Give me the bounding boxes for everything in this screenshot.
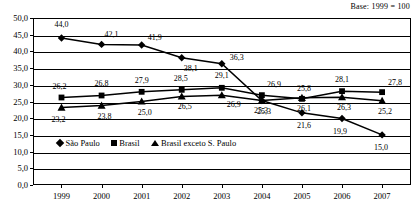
base-note: Base: 1999 = 100 (351, 2, 411, 11)
y-axis-tick (30, 85, 33, 86)
x-axis-tick (382, 185, 383, 188)
plot-area (33, 18, 411, 185)
x-axis-tick (302, 185, 303, 188)
y-axis-label: 40,0 (0, 46, 28, 56)
chart-container: Base: 1999 = 100 0,05,010,015,020,025,03… (0, 0, 418, 218)
data-point-label: 25,2 (378, 108, 392, 116)
chart-legend: São PauloBrasilBrasil exceto S. Paulo (57, 138, 243, 148)
data-point-label: 38,1 (184, 65, 198, 73)
gridline (34, 153, 410, 154)
triangle-marker-icon (151, 140, 159, 146)
y-axis-tick (30, 18, 33, 19)
y-axis-label: 10,0 (0, 147, 28, 157)
data-point-label: 26,9 (227, 101, 241, 109)
y-axis-label: 35,0 (0, 63, 28, 73)
y-axis-label: 0,0 (0, 180, 28, 190)
gridline (34, 36, 410, 37)
y-axis-tick (30, 185, 33, 186)
y-axis-tick (30, 51, 33, 52)
data-point-label: 36,3 (230, 54, 244, 62)
gridline (34, 52, 410, 53)
x-axis-label: 2002 (173, 191, 190, 201)
y-axis-label: 25,0 (0, 97, 28, 107)
data-point-label: 42,1 (105, 31, 119, 39)
legend-entry[interactable]: Brasil exceto S. Paulo (151, 138, 237, 148)
data-point-label: 26,9 (267, 81, 281, 89)
y-axis-tick (30, 168, 33, 169)
y-axis-tick (30, 68, 33, 69)
x-axis-tick (142, 185, 143, 188)
y-axis-label: 30,0 (0, 80, 28, 90)
x-axis-label: 2004 (253, 191, 270, 201)
x-axis-label: 1999 (53, 191, 70, 201)
data-point-label: 27,8 (388, 79, 402, 87)
data-point-label: 44,0 (54, 21, 68, 29)
y-axis-label: 20,0 (0, 113, 28, 123)
x-axis-tick (222, 185, 223, 188)
legend-entry[interactable]: Brasil (111, 138, 140, 148)
x-axis-tick (342, 185, 343, 188)
data-point-label: 27,9 (135, 77, 149, 85)
data-point-label: 28,1 (335, 76, 349, 84)
x-axis-label: 2003 (213, 191, 230, 201)
data-point-label: 23,8 (98, 113, 112, 121)
data-point-label: 41,9 (148, 34, 162, 42)
data-point-label: 26,1 (297, 105, 311, 113)
x-axis-tick (262, 185, 263, 188)
x-axis-label: 2007 (374, 191, 391, 201)
data-point-label: 25,3 (257, 108, 271, 116)
gridline (34, 119, 410, 120)
diamond-marker-icon (56, 139, 64, 147)
data-point-label: 26,3 (337, 104, 351, 112)
y-axis-tick (30, 135, 33, 136)
gridline (34, 86, 410, 87)
x-axis-label: 2001 (133, 191, 150, 201)
data-point-label: 26,2 (52, 83, 66, 91)
x-axis-tick (61, 185, 62, 188)
data-point-label: 15,0 (374, 144, 388, 152)
legend-label: Brasil exceto S. Paulo (161, 138, 236, 148)
y-axis-tick (30, 118, 33, 119)
x-axis-label: 2000 (93, 191, 110, 201)
y-axis-label: 45,0 (0, 30, 28, 40)
data-point-label: 23,2 (51, 116, 65, 124)
y-axis-tick (30, 152, 33, 153)
legend-entry[interactable]: São Paulo (57, 138, 100, 148)
y-axis-tick (30, 35, 33, 36)
x-axis-label: 2006 (334, 191, 351, 201)
data-point-label: 26,8 (95, 80, 109, 88)
y-axis-label: 15,0 (0, 130, 28, 140)
data-point-label: 19,9 (333, 128, 347, 136)
square-marker-icon (111, 140, 117, 146)
data-point-label: 25,0 (138, 109, 152, 117)
legend-label: Brasil (119, 138, 139, 148)
data-point-label: 26,5 (178, 103, 192, 111)
data-point-label: 28,5 (174, 75, 188, 83)
data-point-label: 29,1 (215, 72, 229, 80)
data-point-label: 21,6 (297, 122, 311, 130)
x-axis-tick (102, 185, 103, 188)
y-axis-label: 5,0 (0, 163, 28, 173)
gridline (34, 136, 410, 137)
y-axis-tick (30, 102, 33, 103)
y-axis-label: 50,0 (0, 13, 28, 23)
data-point-label: 25,8 (297, 85, 311, 93)
x-axis-label: 2005 (293, 191, 310, 201)
legend-label: São Paulo (66, 138, 100, 148)
gridline (34, 169, 410, 170)
gridline (34, 103, 410, 104)
x-axis-tick (182, 185, 183, 188)
